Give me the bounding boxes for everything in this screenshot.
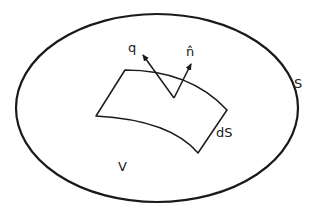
surface-element-label: dS xyxy=(216,125,233,140)
diagram-canvas: q n̂ S dS V xyxy=(0,0,317,213)
volume-label: V xyxy=(118,159,127,174)
normal-vector-label: n̂ xyxy=(186,44,194,59)
flux-vector-arrow xyxy=(143,55,174,98)
surface-element-patch xyxy=(96,70,227,153)
enclosing-surface-outline xyxy=(16,14,298,202)
enclosing-surface-label: S xyxy=(294,76,302,91)
flux-vector-label: q xyxy=(128,40,136,55)
normal-vector-arrow xyxy=(174,64,191,98)
